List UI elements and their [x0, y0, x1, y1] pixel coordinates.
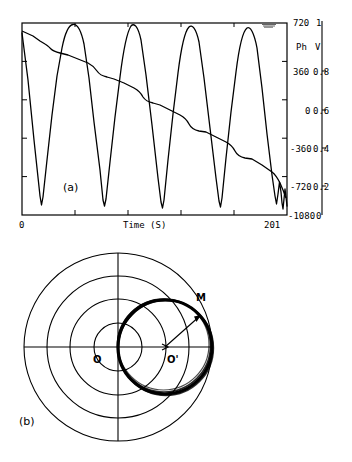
- radius-vector-om: [162, 315, 201, 350]
- ph-tick-neg1080: -1080: [288, 211, 315, 221]
- v-tick-06: 0.6: [313, 106, 329, 116]
- panel-a-caption: (a): [63, 181, 78, 194]
- v-axis-labels: 1 V 0.8 0.6 0.4 0.2 0: [313, 18, 329, 221]
- panel-b-svg: O O' M (b): [0, 235, 352, 462]
- v-tick-1: 1: [316, 18, 321, 28]
- panel-a-svg: (a) 0 201 Time (S) 720 Ph 360 0 -360 -72…: [0, 0, 352, 235]
- label-point-m: M: [196, 292, 206, 303]
- v-tick-0: 0: [316, 211, 321, 221]
- ph-axis-labels: 720 Ph 360 0 -360 -720 -1080: [288, 18, 315, 221]
- left-axis-ticks: [22, 61, 27, 176]
- v-axis-name: V: [315, 42, 321, 52]
- plot-speckle-mark: [262, 25, 276, 28]
- right-axis-ticks: [282, 61, 287, 176]
- ph-tick-0: 0: [305, 106, 310, 116]
- series-ph-curve: [22, 31, 286, 198]
- xaxis-tick-201: 201: [264, 220, 280, 230]
- xaxis-label: Time (S): [123, 220, 166, 230]
- label-origin-o: O: [93, 354, 102, 365]
- ph-tick-360: 360: [293, 67, 309, 77]
- panel-b-polar-diagram: O O' M (b): [0, 235, 352, 462]
- xaxis-tick-0: 0: [19, 220, 24, 230]
- ph-tick-neg720: -720: [290, 182, 312, 192]
- ph-tick-720: 720: [293, 18, 309, 28]
- v-tick-08: 0.8: [313, 67, 329, 77]
- ph-axis-name: Ph: [296, 42, 307, 52]
- ph-tick-neg360: -360: [290, 144, 312, 154]
- panel-a-timeseries: (a) 0 201 Time (S) 720 Ph 360 0 -360 -72…: [0, 0, 352, 235]
- v-tick-02: 0.2: [313, 182, 329, 192]
- v-tick-04: 0.4: [313, 144, 329, 154]
- bottom-axis-ticks: [75, 210, 234, 215]
- figure-container: (a) 0 201 Time (S) 720 Ph 360 0 -360 -72…: [0, 0, 352, 462]
- label-origin-o-prime: O': [167, 354, 179, 365]
- series-v-curve: [22, 24, 287, 209]
- panel-b-caption: (b): [19, 415, 35, 428]
